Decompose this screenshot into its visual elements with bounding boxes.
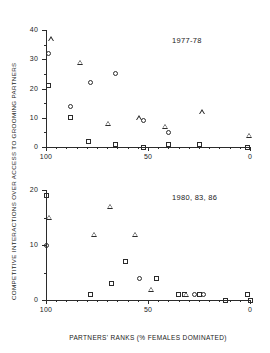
x-tick-minor xyxy=(179,147,180,149)
x-tick-minor xyxy=(168,300,169,302)
x-tick-major xyxy=(148,300,149,304)
x-tick-major xyxy=(148,147,149,151)
data-point-circle xyxy=(46,51,51,56)
x-tick-minor xyxy=(219,147,220,149)
figure-scatter-panels: 1977-78 100500010203040 1980, 83, 86 100… xyxy=(0,0,270,353)
data-point-triangle xyxy=(91,232,97,237)
x-tick-minor xyxy=(179,300,180,302)
x-tick-minor xyxy=(66,300,67,302)
data-point-square xyxy=(86,139,91,144)
y-tick-minor xyxy=(44,103,46,104)
x-tick-label: 100 xyxy=(32,153,60,160)
data-point-square xyxy=(154,276,159,281)
y-tick-minor xyxy=(44,74,46,75)
y-axis-title: COMPETITIVE INTERACTIONS OVER ACCESS TO … xyxy=(10,63,17,300)
x-tick-minor xyxy=(117,300,118,302)
data-point-triangle xyxy=(162,124,168,129)
x-tick-minor xyxy=(97,147,98,149)
x-tick-minor xyxy=(199,300,200,302)
x-tick-minor xyxy=(158,147,159,149)
data-point-circle xyxy=(88,80,93,85)
data-point-triangle xyxy=(77,60,83,65)
x-tick-label: 50 xyxy=(134,153,162,160)
x-tick-minor xyxy=(66,147,67,149)
y-tick-minor xyxy=(44,273,46,274)
x-tick-major xyxy=(46,147,47,151)
data-point-triangle xyxy=(132,232,138,237)
data-point-triangle xyxy=(105,121,111,126)
x-tick-minor xyxy=(209,300,210,302)
data-point-circle xyxy=(201,292,206,297)
data-point-triangle xyxy=(246,133,252,138)
y-tick-major xyxy=(42,147,46,148)
x-tick-label: 0 xyxy=(236,153,264,160)
y-tick-label: 30 xyxy=(18,55,38,62)
x-tick-label: 0 xyxy=(236,306,264,313)
data-point-square xyxy=(245,292,250,297)
y-tick-label: 0 xyxy=(18,143,38,150)
data-point-triangle xyxy=(148,287,154,292)
y-tick-label: 40 xyxy=(18,26,38,33)
y-axis-line xyxy=(46,30,47,148)
data-point-square xyxy=(197,142,202,147)
x-tick-minor xyxy=(158,300,159,302)
data-point-triangle xyxy=(183,292,189,297)
x-tick-minor xyxy=(230,300,231,302)
y-tick-major xyxy=(42,59,46,60)
data-point-square xyxy=(141,145,146,150)
x-tick-minor xyxy=(87,300,88,302)
y-tick-label: 10 xyxy=(18,241,38,248)
data-point-circle xyxy=(113,71,118,76)
x-tick-label: 50 xyxy=(134,306,162,313)
y-tick-major xyxy=(42,190,46,191)
data-point-triangle xyxy=(46,215,52,220)
data-point-square xyxy=(123,259,128,264)
x-tick-minor xyxy=(168,147,169,149)
x-tick-minor xyxy=(107,147,108,149)
panel-title-top: 1977-78 xyxy=(172,36,202,45)
y-tick-major xyxy=(42,30,46,31)
x-tick-minor xyxy=(138,300,139,302)
x-tick-minor xyxy=(128,147,129,149)
x-tick-minor xyxy=(189,300,190,302)
x-tick-minor xyxy=(77,300,78,302)
data-point-circle xyxy=(68,104,73,109)
x-tick-minor xyxy=(87,147,88,149)
x-tick-label: 100 xyxy=(32,306,60,313)
data-point-square xyxy=(248,298,253,303)
x-tick-minor xyxy=(230,147,231,149)
y-tick-major xyxy=(42,118,46,119)
x-tick-minor xyxy=(189,147,190,149)
data-point-square xyxy=(176,292,181,297)
data-point-circle xyxy=(141,118,146,123)
x-tick-minor xyxy=(56,300,57,302)
data-point-square xyxy=(88,292,93,297)
x-tick-minor xyxy=(56,147,57,149)
data-point-triangle xyxy=(48,36,54,41)
data-point-square xyxy=(44,193,49,198)
x-tick-major xyxy=(46,300,47,304)
data-point-square xyxy=(245,145,250,150)
y-tick-major xyxy=(42,89,46,90)
y-tick-minor xyxy=(44,45,46,46)
data-point-square xyxy=(46,83,51,88)
data-point-circle xyxy=(137,276,142,281)
x-tick-minor xyxy=(97,300,98,302)
data-point-square xyxy=(223,298,228,303)
y-tick-minor xyxy=(44,132,46,133)
x-tick-minor xyxy=(77,147,78,149)
x-axis-title: PARTNERS' RANKS (% FEMALES DOMINATED) xyxy=(36,334,260,341)
x-tick-minor xyxy=(219,300,220,302)
x-tick-minor xyxy=(209,147,210,149)
y-tick-label: 10 xyxy=(18,114,38,121)
data-point-circle xyxy=(166,130,171,135)
y-tick-label: 20 xyxy=(18,186,38,193)
data-point-circle xyxy=(44,243,49,248)
x-tick-minor xyxy=(240,147,241,149)
data-point-triangle xyxy=(107,204,113,209)
x-tick-minor xyxy=(117,147,118,149)
y-tick-label: 20 xyxy=(18,85,38,92)
x-tick-minor xyxy=(138,147,139,149)
y-tick-label: 0 xyxy=(18,296,38,303)
x-tick-minor xyxy=(240,300,241,302)
